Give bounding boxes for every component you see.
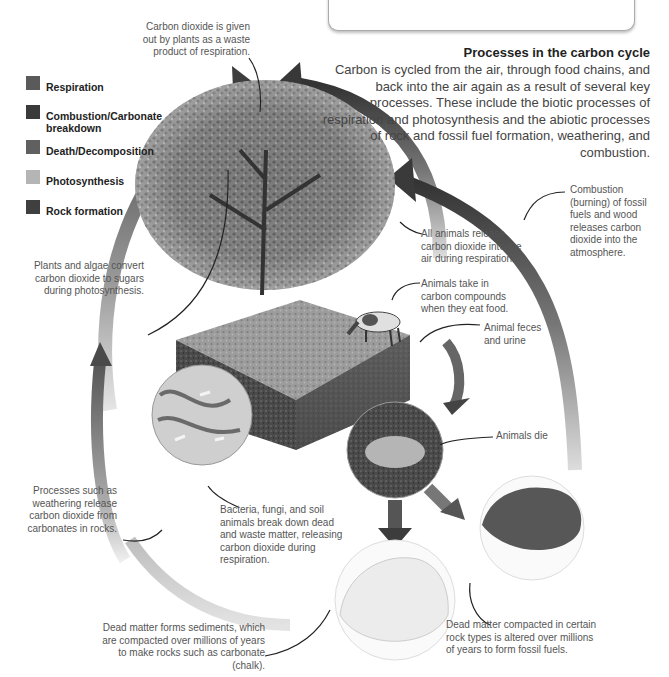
caption-plant-respiration: Carbon dioxide is given out by plants as… (140, 21, 250, 59)
respiration-swatch (26, 76, 40, 90)
caption-combustion: Combustion (burning) of fossil fuels and… (570, 184, 662, 259)
section-heading: Processes in the carbon cycle (464, 45, 650, 60)
legend-label: Rock formation (46, 205, 123, 217)
caption-photosynthesis: Plants and algae convert carbon dioxide … (20, 260, 144, 298)
legend-label: Photosynthesis (46, 175, 124, 187)
legend-item-combustion: Combustion/Carbonate breakdown (26, 105, 156, 134)
caption-animal-respiration: All animals release carbon dioxide into … (421, 228, 531, 266)
decomposition-swatch (26, 140, 40, 154)
caption-animals-eat: Animals take in carbon compounds when th… (421, 278, 521, 316)
legend-label: Combustion/Carbonate breakdown (46, 110, 156, 134)
chalk-rock (335, 540, 455, 660)
caption-animals-die: Animals die (496, 430, 576, 443)
legend-item-rock-formation: Rock formation (26, 200, 123, 217)
rock-formation-swatch (26, 200, 40, 214)
decomposers-circle (152, 365, 252, 465)
fossil-fuel-rock (480, 476, 584, 580)
legend-item-decomposition: Death/Decomposition (26, 140, 154, 157)
caption-weathering: Processes such as weathering release car… (20, 485, 117, 535)
caption-sediments: Dead matter forms sediments, which are c… (100, 622, 265, 672)
legend-item-respiration: Respiration (26, 76, 104, 93)
legend-label: Respiration (46, 81, 104, 93)
caption-feces: Animal feces and urine (484, 322, 554, 347)
legend-label: Death/Decomposition (46, 145, 154, 157)
legend-item-photosynthesis: Photosynthesis (26, 170, 124, 187)
combustion-swatch (26, 105, 40, 119)
section-intro: Carbon is cycled from the air, through f… (320, 62, 650, 161)
photosynthesis-swatch (26, 170, 40, 184)
caption-fossil-fuels: Dead matter compacted in certain rock ty… (446, 619, 598, 657)
caption-decomposers: Bacteria, fungi, and soil animals break … (220, 504, 348, 567)
dead-animal-circle (347, 402, 443, 498)
